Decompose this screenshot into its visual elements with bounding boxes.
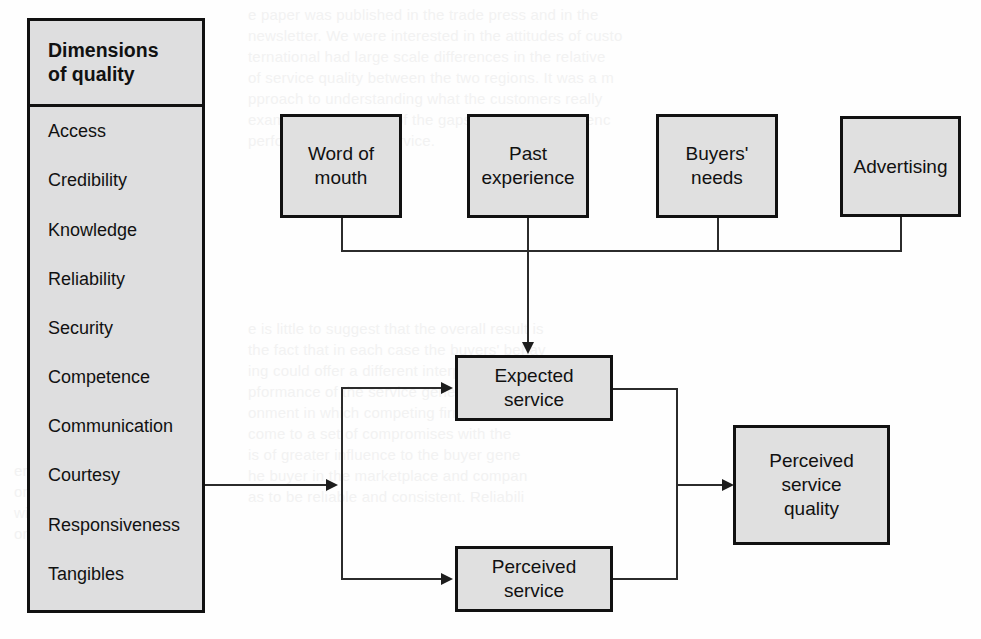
dimension-item-competence[interactable]: Competence: [48, 364, 202, 413]
connector-to-service-quality-arrowhead: [722, 479, 734, 491]
connector-to-expected-service: [341, 387, 442, 389]
connector-expected-service-trunk: [527, 218, 529, 344]
connector-left-split-rail: [341, 387, 343, 579]
node-word-of-mouth[interactable]: Word of mouth: [280, 114, 402, 218]
dimension-item-responsiveness[interactable]: Responsiveness: [48, 512, 202, 561]
connector-to-expected-service-arrowhead: [441, 382, 453, 394]
dimensions-list: Access Credibility Knowledge Reliability…: [30, 107, 202, 610]
connector-to-perceived-service: [341, 578, 442, 580]
dimension-item-access[interactable]: Access: [48, 118, 202, 167]
dimension-item-reliability[interactable]: Reliability: [48, 266, 202, 315]
connector-perceived-service-out: [613, 578, 677, 580]
node-perceived-service-quality[interactable]: Perceived service quality: [733, 425, 890, 545]
diagram-canvas: e paper was published in the trade press…: [0, 0, 981, 639]
connector-expected-service-arrowhead: [522, 342, 534, 354]
connector-to-perceived-service-arrowhead: [441, 573, 453, 585]
dimension-item-knowledge[interactable]: Knowledge: [48, 217, 202, 266]
node-advertising[interactable]: Advertising: [840, 116, 961, 217]
connector-dimensions-out: [205, 484, 327, 486]
node-past-experience[interactable]: Past experience: [467, 114, 589, 218]
connector-buyers-needs-drop: [717, 218, 719, 252]
connector-to-service-quality: [676, 484, 724, 486]
connector-advertising-drop: [900, 217, 902, 252]
connector-sources-bus: [341, 250, 902, 252]
connector-dimensions-arrowhead: [326, 479, 338, 491]
connector-word-of-mouth-drop: [341, 218, 343, 252]
dimension-item-communication[interactable]: Communication: [48, 413, 202, 462]
dimension-item-tangibles[interactable]: Tangibles: [48, 561, 202, 610]
dimension-item-courtesy[interactable]: Courtesy: [48, 462, 202, 511]
dimension-item-credibility[interactable]: Credibility: [48, 167, 202, 216]
panel-title: Dimensions of quality: [30, 21, 202, 107]
connector-expected-service-out: [613, 388, 677, 390]
node-buyers-needs[interactable]: Buyers' needs: [656, 114, 778, 218]
node-expected-service[interactable]: Expected service: [455, 355, 613, 421]
node-perceived-service[interactable]: Perceived service: [455, 546, 613, 612]
dimensions-of-quality-panel: Dimensions of quality Access Credibility…: [27, 18, 205, 613]
dimension-item-security[interactable]: Security: [48, 315, 202, 364]
